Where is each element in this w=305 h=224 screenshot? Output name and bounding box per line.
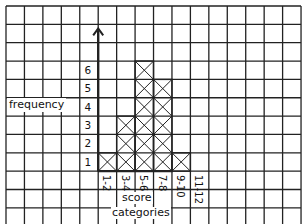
x-axis-label-categories: categories (111, 207, 171, 219)
x-axis-label-score: score (121, 192, 153, 204)
histogram-diagram: frequency 123456 1-23-45-67-89-1011-12 s… (0, 0, 305, 224)
grid-paper (0, 0, 305, 224)
y-tick-label: 1 (81, 156, 95, 168)
y-tick-label: 2 (81, 137, 95, 149)
y-axis-label: frequency (7, 98, 66, 112)
y-tick-label: 3 (81, 119, 95, 131)
x-tick-label: 5-6 (138, 175, 149, 191)
x-tick-label: 9-10 (175, 175, 186, 198)
x-tick-label: 3-4 (120, 175, 131, 191)
y-tick-label: 6 (81, 64, 95, 76)
y-tick-label: 5 (81, 82, 95, 94)
x-tick-label: 1-2 (101, 175, 112, 191)
x-tick-label: 11-12 (193, 175, 204, 204)
y-tick-label: 4 (81, 101, 95, 113)
x-tick-label: 7-8 (157, 175, 168, 191)
